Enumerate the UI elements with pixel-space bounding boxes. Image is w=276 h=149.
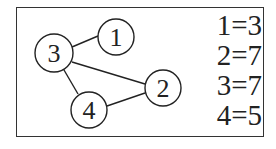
- legend-item: 3=7: [200, 70, 262, 100]
- edge-3-4: [64, 70, 78, 94]
- node-label: 2: [157, 74, 170, 103]
- node-label: 4: [83, 96, 96, 125]
- node-label: 3: [48, 39, 61, 68]
- edge-3-1: [72, 36, 98, 47]
- legend-item: 4=5: [200, 100, 262, 130]
- node-1: 1: [98, 19, 134, 55]
- legend-item: 1=3: [200, 10, 262, 40]
- legend-item: 2=7: [200, 40, 262, 70]
- edge-4-2: [107, 93, 145, 106]
- node-3: 3: [35, 34, 73, 72]
- node-2: 2: [145, 70, 181, 106]
- node-label: 1: [110, 23, 123, 52]
- value-legend: 1=3 2=7 3=7 4=5: [200, 10, 262, 130]
- edge-3-2: [72, 62, 145, 84]
- node-4: 4: [71, 92, 107, 128]
